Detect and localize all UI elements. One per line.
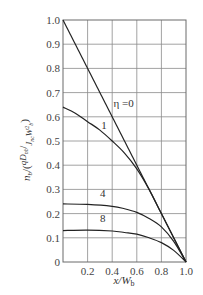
curve-label: 4: [100, 187, 106, 199]
curve-label: 8: [100, 212, 106, 224]
y-tick-label: 0.9: [46, 38, 60, 50]
y-axis-label: nb/(qDnb/JncW2b): [18, 119, 35, 181]
x-tick-label: 1.0: [179, 265, 193, 277]
y-tick-label: 0.5: [46, 135, 60, 147]
chart: 00.10.20.30.40.50.60.70.80.91.0 0.20.40.…: [0, 0, 203, 295]
y-tick-label: 0: [55, 256, 61, 268]
y-axis-ticks: 00.10.20.30.40.50.60.70.80.91.0: [46, 14, 60, 268]
curve-eta-1: [63, 107, 186, 262]
y-tick-label: 0.2: [46, 208, 60, 220]
y-tick-label: 0.3: [46, 183, 60, 195]
y-tick-label: 0.7: [46, 87, 60, 99]
curve-label: 1: [101, 119, 107, 131]
curve-label: η =0: [113, 97, 134, 109]
x-tick-label: 0.6: [130, 265, 144, 277]
curve-eta-3: [63, 230, 186, 262]
y-tick-label: 1.0: [46, 14, 60, 26]
svg-text:nb/(qDnb/JncW2b): nb/(qDnb/JncW2b): [18, 119, 35, 181]
x-tick-label: 0.2: [81, 265, 95, 277]
x-axis-ticks: 0.20.40.60.81.0: [81, 265, 194, 277]
x-tick-label: 0.8: [155, 265, 169, 277]
y-tick-label: 0.6: [46, 111, 60, 123]
y-tick-label: 0.1: [46, 232, 60, 244]
y-tick-label: 0.8: [46, 62, 60, 74]
y-tick-label: 0.4: [46, 159, 60, 171]
